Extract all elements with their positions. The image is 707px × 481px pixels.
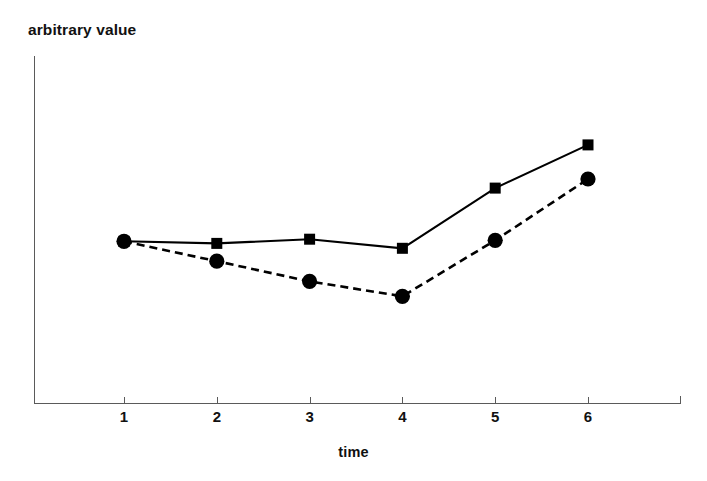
x-tick-label: 6 [568, 408, 608, 425]
data-point-square [490, 183, 501, 194]
data-point-square [211, 238, 222, 249]
chart-figure: arbitrary value 123456 time [0, 0, 707, 481]
data-point-square [304, 234, 315, 245]
data-point-square [397, 243, 408, 254]
series-markers-square [119, 139, 594, 253]
data-point-circle [488, 233, 503, 248]
data-point-square [119, 236, 130, 247]
series-markers-circle [116, 171, 595, 304]
series-line-dashed [124, 179, 588, 296]
data-point-circle [209, 254, 224, 269]
x-axis-ticks [125, 397, 589, 404]
x-tick-label: 2 [197, 408, 237, 425]
axes-group [35, 56, 681, 404]
series-line-solid [124, 145, 588, 248]
data-point-circle [302, 274, 317, 289]
data-point-square [583, 139, 594, 150]
data-point-circle [580, 171, 595, 186]
x-axis-label: time [0, 444, 707, 460]
x-tick-label: 5 [475, 408, 515, 425]
x-tick-label: 1 [104, 408, 144, 425]
data-point-circle [395, 289, 410, 304]
x-tick-label: 4 [382, 408, 422, 425]
x-tick-label: 3 [290, 408, 330, 425]
